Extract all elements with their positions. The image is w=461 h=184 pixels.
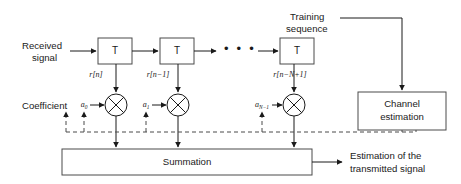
coefficient-symbol-2: aN−1 bbox=[255, 100, 269, 110]
output-label-line1: Estimation of the bbox=[350, 150, 421, 161]
tap-signal-label-1: r[n−1] bbox=[147, 70, 170, 79]
training-sequence-label-line1: Training bbox=[290, 11, 324, 22]
channel-estimation-label-line2: estimation bbox=[380, 111, 424, 122]
training-sequence-label-line2: sequence bbox=[286, 23, 328, 34]
delay-box-2-label: T bbox=[174, 45, 180, 56]
channel-estimation-label-line1: Channel bbox=[384, 98, 420, 109]
coefficient-label: Coefficient bbox=[22, 100, 67, 111]
tap-signal-label-0: r[n] bbox=[89, 70, 102, 79]
equalizer-diagram: Received signal T T • • • T r[n] r[n−1] … bbox=[0, 0, 461, 184]
coefficient-symbol-0: a0 bbox=[81, 100, 88, 110]
training-sequence-path bbox=[340, 18, 402, 90]
delay-box-3-label: T bbox=[294, 45, 300, 56]
ellipsis-dots: • • • bbox=[224, 41, 256, 56]
diagram-canvas: Received signal T T • • • T r[n] r[n−1] … bbox=[0, 0, 461, 184]
mixer-1 bbox=[167, 94, 189, 116]
tap-signal-label-2: r[n−N+1] bbox=[273, 70, 306, 79]
mixer-2 bbox=[283, 94, 305, 116]
delay-box-1-label: T bbox=[112, 45, 118, 56]
mixer-0 bbox=[105, 94, 127, 116]
coefficient-symbol-1: a1 bbox=[143, 100, 150, 110]
received-signal-label-line2: signal bbox=[32, 52, 57, 63]
output-label-line2: transmitted signal bbox=[350, 163, 425, 174]
received-signal-label-line1: Received bbox=[22, 40, 62, 51]
summation-label: Summation bbox=[163, 156, 212, 167]
